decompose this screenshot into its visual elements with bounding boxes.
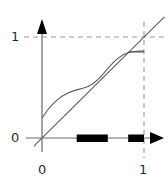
y-axis-tick-label-zero: 0 xyxy=(11,131,19,144)
x-axis-arrowhead xyxy=(150,132,164,144)
function-curve xyxy=(42,51,144,118)
x-axis-tick-label-zero: 0 xyxy=(38,163,46,176)
x-axis-tick-label-one: 1 xyxy=(139,163,147,176)
y-axis-tick-label-one: 1 xyxy=(11,30,19,43)
y-axis-arrowhead xyxy=(37,19,47,34)
function-graph-svg xyxy=(0,0,168,186)
interval-marker-2 xyxy=(128,135,144,143)
figure-canvas: 1 0 0 1 xyxy=(0,0,168,186)
interval-marker-1 xyxy=(77,135,108,143)
identity-line xyxy=(34,17,165,146)
